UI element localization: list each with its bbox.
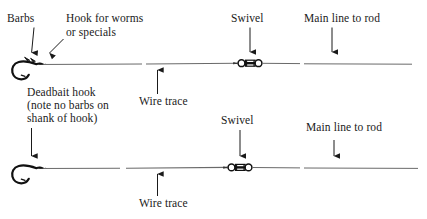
label-deadbait-line1: Deadbait hook <box>27 86 96 99</box>
bottom-main-line <box>252 168 418 169</box>
label-main-line-bottom: Main line to rod <box>306 121 382 134</box>
label-hook-for-worms-line2: or specials <box>66 26 116 39</box>
bottom-rig <box>12 128 418 196</box>
label-swivel-top: Swivel <box>231 12 264 25</box>
label-deadbait-line3: shank of hook) <box>27 112 97 125</box>
barbs-leader <box>32 28 34 53</box>
deadbait-hook <box>12 165 46 183</box>
label-barbs: Barbs <box>7 12 34 25</box>
label-main-line-top: Main line to rod <box>304 12 380 25</box>
top-swivel <box>233 60 262 67</box>
label-hook-for-worms-line1: Hook for worms <box>66 12 143 25</box>
top-main-line <box>262 63 412 64</box>
hook-for-worms-leader <box>50 39 64 53</box>
label-wire-trace-top: Wire trace <box>139 95 188 108</box>
label-deadbait-line2: (note no barbs on <box>27 99 109 112</box>
top-wire-trace <box>36 63 238 64</box>
fishing-rig-diagram: Barbs Hook for worms or specials Swivel … <box>0 0 427 219</box>
bottom-swivel <box>223 164 252 171</box>
bottom-wire-trace <box>36 167 228 168</box>
worm-hook <box>12 57 46 79</box>
label-wire-trace-bottom: Wire trace <box>139 197 188 210</box>
label-swivel-bottom: Swivel <box>221 114 254 127</box>
